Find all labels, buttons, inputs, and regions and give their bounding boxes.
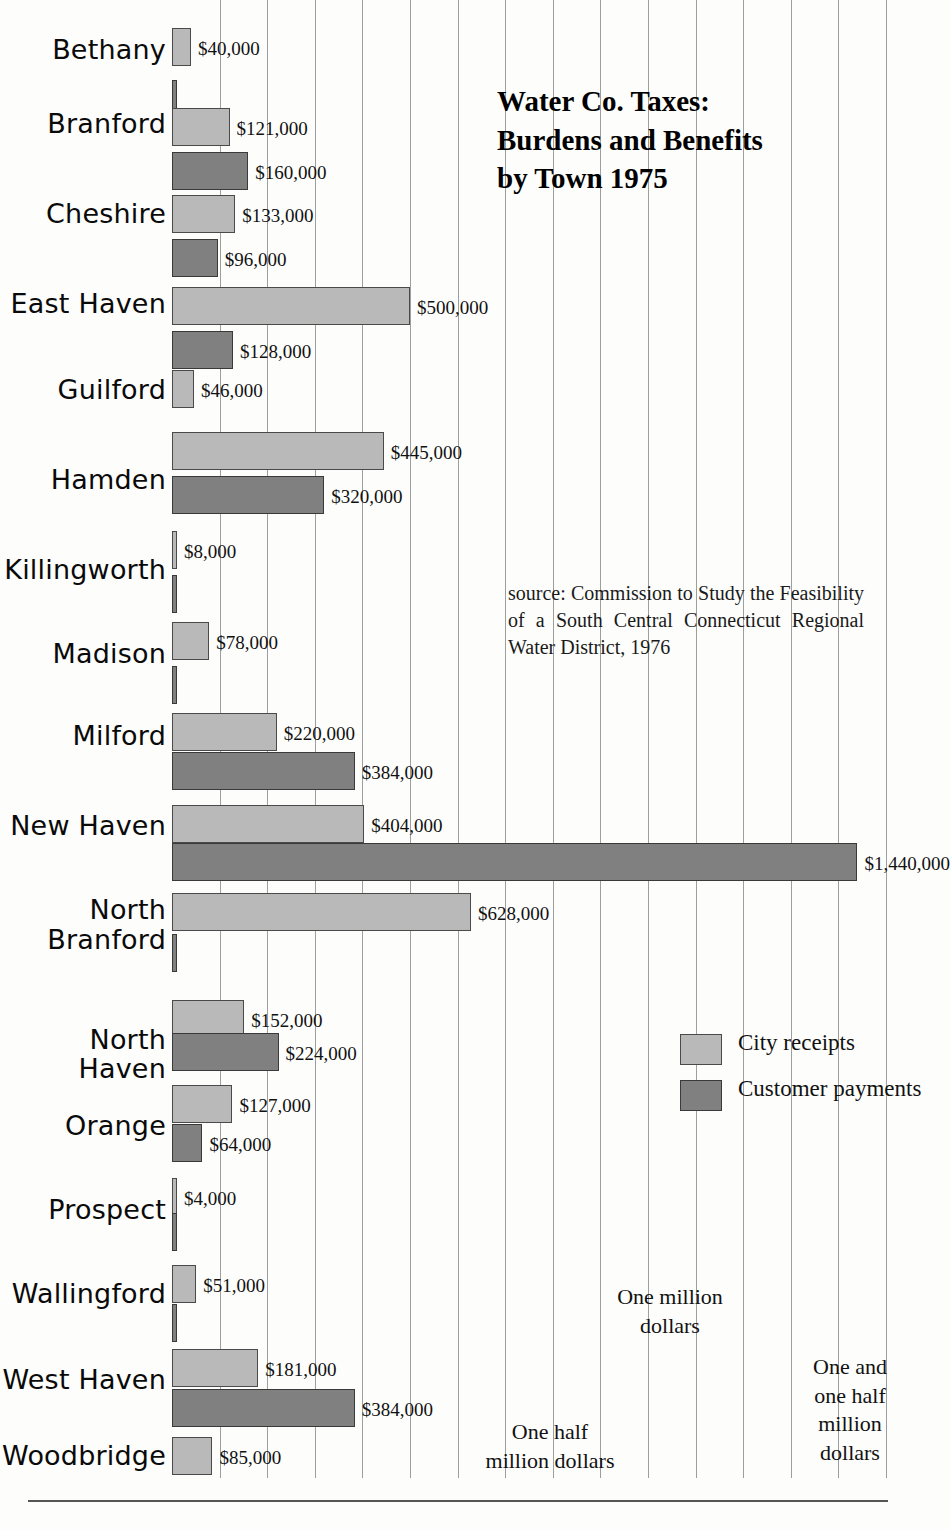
bar-value-label: $181,000 xyxy=(265,1359,336,1381)
bar-value-label: $8,000 xyxy=(184,541,236,563)
town-label: NorthBranford xyxy=(0,895,166,954)
gridline xyxy=(505,0,506,1478)
legend-swatch xyxy=(680,1034,722,1065)
bar-city-receipts xyxy=(172,28,191,66)
bar-value-label: $500,000 xyxy=(417,297,488,319)
bar-value-label: $78,000 xyxy=(216,632,278,654)
town-label: Branford xyxy=(0,110,166,139)
axis-note: One half million dollars xyxy=(470,1418,630,1475)
bar-city-receipts xyxy=(172,432,384,470)
town-label: Milford xyxy=(0,722,166,751)
gridline xyxy=(696,0,697,1478)
town-label: Killingworth xyxy=(0,556,166,585)
bar-customer-payments xyxy=(172,934,177,972)
bar-city-receipts xyxy=(172,1349,258,1387)
bar-value-label: $1,440,000 xyxy=(864,853,950,875)
bar-city-receipts xyxy=(172,195,235,233)
gridline xyxy=(410,0,411,1478)
bar-customer-payments xyxy=(172,666,177,704)
bar-city-receipts xyxy=(172,893,471,931)
town-label: Bethany xyxy=(0,36,166,65)
bar-customer-payments xyxy=(172,239,218,277)
gridline xyxy=(553,0,554,1478)
bar-customer-payments xyxy=(172,476,324,514)
gridline xyxy=(362,0,363,1478)
gridline xyxy=(743,0,744,1478)
bar-city-receipts xyxy=(172,1085,232,1123)
bar-city-receipts xyxy=(172,805,364,843)
source-note: source: Commission to Study the Feasibil… xyxy=(508,580,864,661)
bar-value-label: $404,000 xyxy=(371,815,442,837)
town-label: New Haven xyxy=(0,812,166,841)
bar-city-receipts xyxy=(172,531,177,569)
bar-value-label: $85,000 xyxy=(219,1447,281,1469)
bar-city-receipts xyxy=(172,370,194,408)
bar-city-receipts xyxy=(172,1265,196,1303)
gridline xyxy=(886,0,887,1478)
bar-city-receipts xyxy=(172,1437,212,1475)
town-label: Guilford xyxy=(0,376,166,405)
bar-value-label: $628,000 xyxy=(478,903,549,925)
bar-customer-payments xyxy=(172,843,857,881)
bar-value-label: $152,000 xyxy=(251,1010,322,1032)
town-label: Hamden xyxy=(0,466,166,495)
town-label: Prospect xyxy=(0,1196,166,1225)
bar-value-label: $128,000 xyxy=(240,341,311,363)
legend-swatch xyxy=(680,1080,722,1111)
gridline xyxy=(600,0,601,1478)
bar-customer-payments xyxy=(172,1124,202,1162)
bar-value-label: $220,000 xyxy=(284,723,355,745)
bar-value-label: $133,000 xyxy=(242,205,313,227)
gridline xyxy=(791,0,792,1478)
axis-note: One million dollars xyxy=(600,1283,740,1340)
town-label: North Haven xyxy=(0,1026,166,1083)
town-label: East Haven xyxy=(0,290,166,319)
bar-value-label: $4,000 xyxy=(184,1188,236,1210)
town-label: West Haven xyxy=(0,1366,166,1395)
bar-value-label: $384,000 xyxy=(362,1399,433,1421)
bar-value-label: $96,000 xyxy=(225,249,287,271)
bar-value-label: $127,000 xyxy=(239,1095,310,1117)
bar-customer-payments xyxy=(172,1213,177,1251)
bottom-divider xyxy=(28,1500,888,1502)
bar-customer-payments xyxy=(172,752,355,790)
bar-value-label: $320,000 xyxy=(331,486,402,508)
bar-customer-payments xyxy=(172,575,177,613)
bar-value-label: $224,000 xyxy=(286,1043,357,1065)
bar-value-label: $160,000 xyxy=(255,162,326,184)
bar-value-label: $51,000 xyxy=(203,1275,265,1297)
legend-label: City receipts xyxy=(738,1030,855,1056)
town-label: Orange xyxy=(0,1112,166,1141)
bar-city-receipts xyxy=(172,622,209,660)
bar-customer-payments xyxy=(172,1033,279,1071)
gridline xyxy=(838,0,839,1478)
bar-city-receipts xyxy=(172,108,230,146)
bar-customer-payments xyxy=(172,1389,355,1427)
gridline xyxy=(458,0,459,1478)
axis-note: One and one half million dollars xyxy=(790,1353,910,1467)
gridline xyxy=(648,0,649,1478)
bar-value-label: $64,000 xyxy=(209,1134,271,1156)
legend-label: Customer payments xyxy=(738,1076,921,1102)
bar-city-receipts xyxy=(172,287,410,325)
bar-customer-payments xyxy=(172,152,248,190)
bar-value-label: $40,000 xyxy=(198,38,260,60)
bar-city-receipts xyxy=(172,713,277,751)
town-label: Woodbridge xyxy=(0,1442,166,1471)
chart-title: Water Co. Taxes: Burdens and Benefits by… xyxy=(497,82,897,198)
town-label: Cheshire xyxy=(0,200,166,229)
bar-value-label: $46,000 xyxy=(201,380,263,402)
town-label: Wallingford xyxy=(0,1280,166,1309)
bar-value-label: $384,000 xyxy=(362,762,433,784)
bar-city-receipts xyxy=(172,1178,177,1216)
bar-value-label: $445,000 xyxy=(391,442,462,464)
bar-customer-payments xyxy=(172,331,233,369)
bar-customer-payments xyxy=(172,1304,177,1342)
bar-value-label: $121,000 xyxy=(237,118,308,140)
town-label: Madison xyxy=(0,640,166,669)
